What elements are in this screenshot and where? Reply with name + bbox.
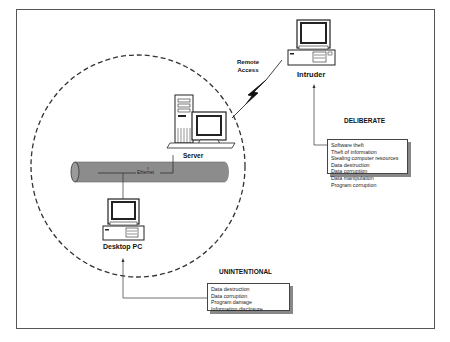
list-item: Data corruption bbox=[331, 168, 404, 175]
list-item: Theft of information bbox=[331, 149, 404, 156]
deliberate-title: DELIBERATE bbox=[344, 117, 385, 124]
unintentional-title: UNINTENTIONAL bbox=[219, 268, 272, 275]
list-item: Data corruption bbox=[211, 293, 286, 300]
desktop-computer-icon bbox=[103, 199, 144, 240]
list-item: Data destruction bbox=[211, 286, 286, 293]
server-label: Server bbox=[183, 152, 203, 159]
list-item: Data destruction bbox=[331, 162, 404, 169]
intruder-label: Intruder bbox=[297, 70, 325, 79]
desktop-computer-icon bbox=[288, 20, 335, 65]
desktop-pc-risk-connector bbox=[122, 258, 208, 298]
remote-access-label: Remote Access bbox=[237, 58, 259, 74]
remote-access-line1: Remote bbox=[237, 58, 259, 66]
list-item: Software theft bbox=[331, 142, 404, 149]
list-item: Program damage bbox=[211, 299, 286, 306]
list-item: Program corruption bbox=[331, 182, 404, 189]
desktop-pc-label: Desktop PC bbox=[103, 243, 142, 250]
list-item: Data manipulation bbox=[331, 175, 404, 182]
intruder-connector bbox=[313, 84, 328, 145]
unintentional-risk-box: Data destruction Data corruption Program… bbox=[207, 283, 290, 311]
deliberate-risk-box: Software theft Theft of information Stea… bbox=[327, 139, 408, 174]
ethernet-label: Ethernet bbox=[137, 170, 154, 175]
tower-server-icon bbox=[167, 95, 235, 148]
ethernet-pipe bbox=[71, 155, 229, 182]
list-item: Stealing computer resources bbox=[331, 155, 404, 162]
remote-access-line2: Access bbox=[237, 66, 259, 74]
list-item: Information disclosure bbox=[211, 306, 286, 313]
